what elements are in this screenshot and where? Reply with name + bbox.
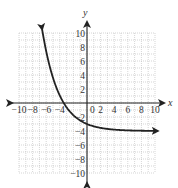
y-tick-label: −6 [75,141,85,151]
y-tick-label: −10 [70,169,85,179]
y-tick-label: 10 [76,29,86,39]
function-curve [42,29,158,131]
x-tick-label: −8 [28,105,38,115]
x-tick-label: −10 [12,105,27,115]
graph: x y −10−8−6−4246810 108642−2−4−6−8−10 0 [0,0,178,188]
y-tick-label: 2 [80,85,85,95]
x-tick-label: 10 [150,105,160,115]
x-axis-label: x [167,97,173,108]
y-axis-label: y [82,7,88,18]
y-tick-label: 8 [80,43,85,53]
x-tick-label: −4 [55,105,65,115]
x-tick-label: 8 [139,105,144,115]
x-tick-label: 6 [125,105,130,115]
origin-label: 0 [90,105,95,115]
y-tick-label: 4 [80,71,85,81]
x-tick-label: −6 [41,105,51,115]
x-tick-label: 4 [112,105,117,115]
y-tick-label: −4 [75,127,85,137]
y-tick-label: 6 [80,57,85,67]
y-tick-label: −8 [75,155,85,165]
x-tick-label: 2 [98,105,103,115]
